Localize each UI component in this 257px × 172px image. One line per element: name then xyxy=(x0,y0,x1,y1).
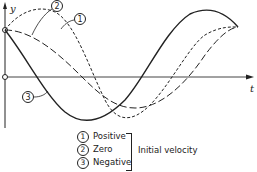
legend: 1 Positive 2 Zero 3 Negative xyxy=(77,130,131,169)
callout-2-leader xyxy=(32,9,52,35)
t-axis-arrow-icon xyxy=(246,75,254,80)
legend-num-3: 3 xyxy=(77,157,89,169)
legend-num-2: 2 xyxy=(77,144,89,156)
curve-positive xyxy=(5,9,238,118)
legend-brace xyxy=(126,133,132,171)
legend-label-zero: Zero xyxy=(93,143,113,156)
callout-1-leader xyxy=(61,20,74,29)
legend-item-zero: 2 Zero xyxy=(77,143,131,156)
callout-1: 1 xyxy=(77,15,82,24)
t-axis-label: t xyxy=(250,83,255,94)
callout-2: 2 xyxy=(54,2,59,11)
legend-group-label: Initial velocity xyxy=(138,145,197,155)
y-axis-arrow-icon xyxy=(3,2,7,9)
curve-zero xyxy=(5,27,238,108)
origin-marker xyxy=(3,75,8,80)
legend-num-1: 1 xyxy=(77,131,89,143)
legend-item-positive: 1 Positive xyxy=(77,130,131,143)
legend-item-negative: 3 Negative xyxy=(77,156,131,169)
callout-3-leader xyxy=(34,91,48,97)
y-axis-label: y xyxy=(9,3,16,14)
callout-3: 3 xyxy=(25,93,30,102)
curve-negative xyxy=(5,10,238,121)
legend-label-positive: Positive xyxy=(93,130,126,143)
